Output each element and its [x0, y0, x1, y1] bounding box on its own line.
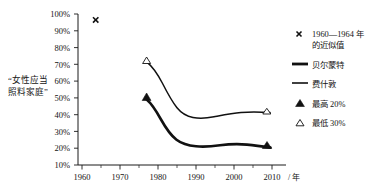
y-tick-label: 50%: [54, 93, 70, 103]
series-line-fishtown: [147, 62, 270, 118]
marker-filled-triangle-end: [262, 142, 271, 149]
y-tick-label: 30%: [54, 127, 70, 137]
y-tick-label: 100%: [50, 9, 70, 19]
series-line-belmont: [147, 100, 271, 148]
x-tick-label: 1980: [150, 172, 167, 182]
y-axis-label-line1: “女性应当: [8, 74, 48, 85]
marker-x-1962-approx: [93, 17, 98, 22]
chart-svg: “女性应当 照料家庭” 100% 90% 80% 70% 60% 50% 40%: [0, 0, 377, 195]
legend-label: 最高 20%: [312, 99, 345, 109]
legend-label: 最低 30%: [312, 118, 345, 128]
y-axis-tick-labels: 100% 90% 80% 70% 60% 50% 40% 30% 20% 10%: [50, 9, 70, 170]
hollow-triangle-icon: [296, 120, 304, 126]
legend-item-fishtown: 费什敦: [292, 79, 337, 89]
y-tick-label: 70%: [54, 60, 70, 70]
x-axis-unit-label: / 年: [288, 172, 300, 182]
x-axis-tick-labels: 1960 1970 1980 1990 2000 2010: [74, 172, 281, 182]
y-tick-label: 80%: [54, 43, 70, 53]
legend-item-bottom30: 最低 30%: [296, 118, 345, 128]
y-tick-label: 10%: [54, 160, 70, 170]
filled-triangle-icon: [296, 100, 305, 107]
y-tick-label: 20%: [54, 143, 70, 153]
x-tick-label: 1960: [74, 172, 91, 182]
legend-item-top20: 最高 20%: [296, 99, 346, 109]
x-tick-label: 2000: [226, 172, 243, 182]
marker-filled-triangle-start: [142, 93, 151, 101]
legend-label: 贝尔蒙特: [312, 60, 345, 70]
chart-container: “女性应当 照料家庭” 100% 90% 80% 70% 60% 50% 40%: [0, 0, 377, 195]
y-tick-label: 90%: [54, 26, 70, 36]
x-tick-label: 1970: [112, 172, 129, 182]
marker-hollow-triangle-start: [143, 57, 151, 64]
legend-label: 费什敦: [312, 79, 337, 89]
chart-legend: 1960—1964 年 的近似值 贝尔蒙特 费什敦 最高 20% 最低: [292, 29, 364, 128]
legend-label-line2: 的近似值: [312, 40, 345, 50]
legend-label: 1960—1964 年: [312, 29, 364, 39]
x-marker-icon: [297, 32, 302, 37]
legend-item-belmont: 贝尔蒙特: [292, 60, 345, 70]
marker-hollow-triangle-end: [263, 108, 271, 114]
legend-item-approx: 1960—1964 年 的近似值: [297, 29, 364, 50]
y-axis-label-line2: 照料家庭”: [8, 86, 48, 97]
y-tick-label: 60%: [54, 76, 70, 86]
y-tick-label: 40%: [54, 110, 70, 120]
x-tick-label: 1990: [188, 172, 205, 182]
y-axis-ticks: [74, 14, 78, 165]
x-tick-label: 2010: [264, 172, 281, 182]
